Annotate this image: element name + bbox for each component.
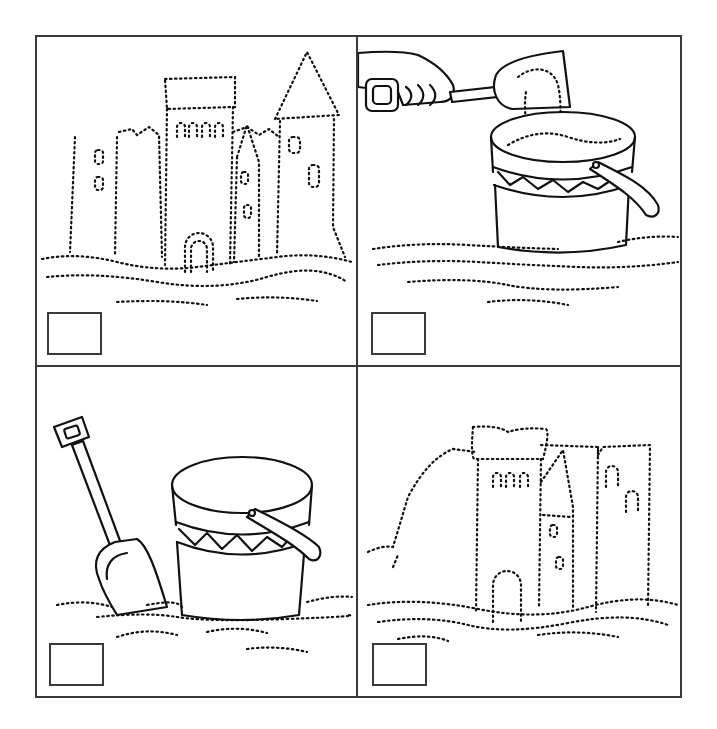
panel-bottom-left [37,367,356,698]
panel-top-left [37,37,356,365]
answer-box-top-left[interactable] [47,312,102,355]
answer-box-bottom-left[interactable] [49,643,104,686]
answer-box-bottom-right[interactable] [372,643,427,686]
panel-bottom-right [358,367,682,698]
answer-box-top-right[interactable] [371,312,426,355]
panel-top-right [358,37,682,365]
